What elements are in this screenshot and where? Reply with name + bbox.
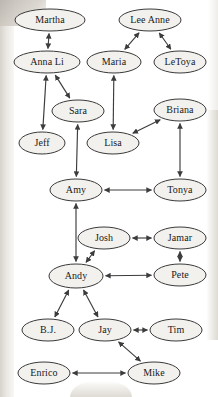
node-label-maria: Maria (102, 56, 127, 67)
node-jamar[interactable]: Jamar (154, 227, 206, 249)
node-martha[interactable]: Martha (15, 9, 85, 31)
node-jay[interactable]: Jay (79, 319, 131, 341)
edge-andy-jay (84, 290, 98, 317)
node-josh[interactable]: Josh (78, 227, 130, 249)
node-enrico[interactable]: Enrico (18, 362, 70, 384)
edge-martha-annali (48, 34, 49, 49)
node-label-martha: Martha (35, 14, 65, 25)
node-letoya[interactable]: LeToya (154, 51, 206, 73)
node-pete[interactable]: Pete (154, 264, 206, 286)
node-label-annali: Anna Li (30, 56, 64, 67)
node-label-jeff: Jeff (34, 137, 50, 148)
node-label-bj: B.J. (40, 324, 56, 335)
node-label-enrico: Enrico (30, 367, 57, 378)
node-jeff[interactable]: Jeff (19, 132, 65, 154)
edge-jay-mike (119, 342, 141, 361)
node-maria[interactable]: Maria (87, 51, 141, 73)
node-label-amy: Amy (66, 184, 86, 195)
network-graph: MarthaLee AnneAnna LiMariaLeToyaSaraBria… (0, 0, 218, 397)
node-label-leeanne: Lee Anne (130, 14, 170, 25)
node-sara[interactable]: Sara (52, 100, 104, 122)
node-label-jamar: Jamar (168, 232, 193, 243)
diagram-canvas: MarthaLee AnneAnna LiMariaLeToyaSaraBria… (0, 0, 218, 397)
node-lisa[interactable]: Lisa (87, 132, 139, 154)
edge-leeanne-letoya (159, 33, 171, 49)
edge-annali-jeff (43, 76, 46, 130)
edge-lisa-briana (133, 120, 160, 134)
node-label-jay: Jay (98, 324, 112, 335)
node-leeanne[interactable]: Lee Anne (119, 9, 181, 31)
edge-sara-amy (76, 125, 77, 177)
edge-leeanne-maria (125, 33, 139, 50)
node-tim[interactable]: Tim (150, 319, 202, 341)
node-label-letoya: LeToya (165, 56, 196, 67)
node-briana[interactable]: Briana (154, 99, 206, 121)
edge-maria-lisa (113, 76, 114, 130)
edge-josh-andy (86, 251, 95, 263)
edge-annali-sara (55, 75, 70, 98)
node-label-tim: Tim (168, 324, 185, 335)
edge-andy-bj (55, 290, 69, 317)
node-label-tonya: Tonya (167, 184, 193, 195)
node-mike[interactable]: Mike (128, 362, 180, 384)
node-amy[interactable]: Amy (50, 179, 102, 201)
node-bj[interactable]: B.J. (22, 319, 74, 341)
node-label-mike: Mike (143, 367, 165, 378)
node-label-pete: Pete (171, 269, 189, 280)
node-tonya[interactable]: Tonya (154, 179, 206, 201)
node-label-josh: Josh (95, 232, 113, 243)
node-label-briana: Briana (166, 104, 194, 115)
nodes-layer: MarthaLee AnneAnna LiMariaLeToyaSaraBria… (14, 9, 206, 384)
node-annali[interactable]: Anna Li (14, 51, 80, 73)
node-label-lisa: Lisa (104, 137, 122, 148)
node-label-andy: Andy (65, 270, 88, 281)
node-label-sara: Sara (69, 105, 88, 116)
node-andy[interactable]: Andy (49, 264, 103, 288)
